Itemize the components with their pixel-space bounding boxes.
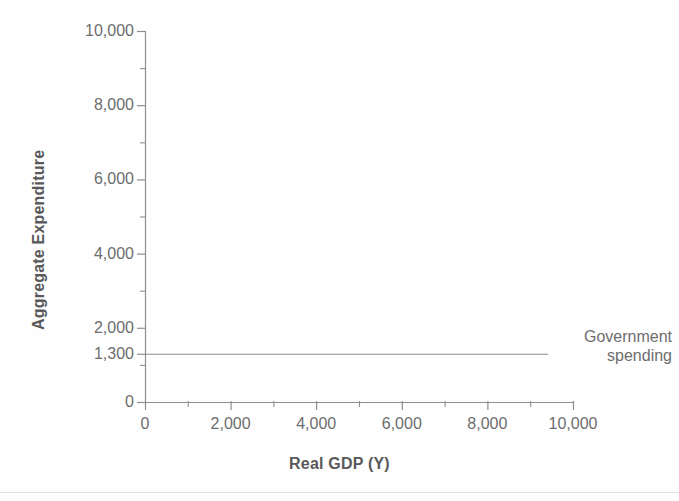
y-tick-label: 8,000	[40, 97, 134, 113]
y-tick-label: 4,000	[40, 246, 134, 262]
y-tick-label: 10,000	[40, 23, 134, 39]
page-scan-edge	[0, 492, 679, 493]
y-tick-label: 1,300	[40, 346, 134, 362]
annotation-line-1: Government	[548, 327, 672, 346]
x-tick-label: 4,000	[296, 416, 336, 432]
x-axis-title: Real GDP (Y)	[0, 455, 679, 473]
x-tick-label: 8,000	[467, 416, 507, 432]
y-axis-title: Aggregate Expenditure	[30, 150, 48, 330]
y-tick-label: 2,000	[40, 320, 134, 336]
y-tick-label: 0	[40, 394, 134, 410]
y-tick-label: 6,000	[40, 171, 134, 187]
x-tick-label: 2,000	[211, 416, 251, 432]
government-spending-annotation: Government spending	[548, 327, 672, 365]
x-tick-label: 10,000	[549, 416, 598, 432]
x-tick-label: 6,000	[382, 416, 422, 432]
economics-figure: 10,0008,0006,0004,0002,0001,3000 02,0004…	[0, 0, 679, 501]
annotation-line-2: spending	[548, 346, 672, 365]
x-tick-label: 0	[141, 416, 150, 432]
